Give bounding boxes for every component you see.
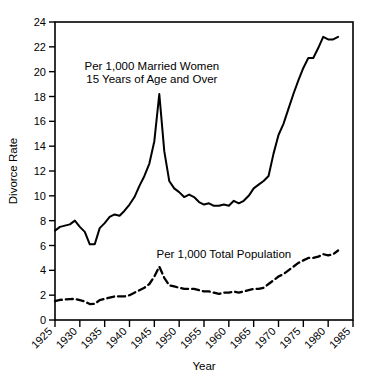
married-women-annotation-line: 15 Years of Age and Over [86, 73, 217, 85]
y-tick-label: 24 [34, 16, 46, 28]
y-tick-label: 2 [40, 289, 46, 301]
y-tick-label: 18 [34, 91, 46, 103]
x-tick-label: 1975 [277, 325, 303, 351]
x-tick-label: 1940 [103, 325, 129, 351]
x-axis-title: Year [192, 360, 215, 372]
x-tick-label: 1930 [53, 325, 79, 351]
y-axis-ticks [49, 22, 55, 320]
x-tick-label: 1960 [202, 325, 228, 351]
x-tick-label: 1935 [78, 325, 104, 351]
y-tick-label: 14 [34, 140, 46, 152]
x-tick-label: 1950 [153, 325, 179, 351]
y-tick-label: 6 [40, 240, 46, 252]
y-tick-label: 0 [40, 314, 46, 326]
y-tick-label: 22 [34, 41, 46, 53]
x-tick-label: 1955 [178, 325, 204, 351]
y-axis-title: Divorce Rate [7, 138, 19, 204]
divorce-rate-chart: 024681012141618202224 192519301935194019… [0, 0, 375, 381]
y-tick-label: 8 [40, 215, 46, 227]
x-tick-label: 1945 [128, 325, 154, 351]
x-tick-label: 1985 [327, 325, 353, 351]
x-axis-ticks [55, 320, 353, 327]
y-tick-label: 10 [34, 190, 46, 202]
x-tick-label: 1925 [29, 325, 55, 351]
x-tick-label: 1980 [302, 325, 328, 351]
x-axis-tick-labels: 1925193019351940194519501955196019651970… [29, 325, 353, 351]
x-tick-label: 1970 [252, 325, 278, 351]
y-tick-label: 12 [34, 165, 46, 177]
y-tick-label: 20 [34, 66, 46, 78]
y-tick-label: 16 [34, 115, 46, 127]
y-tick-label: 4 [40, 264, 46, 276]
x-tick-label: 1965 [227, 325, 253, 351]
married-women-annotation-line: Per 1,000 Married Women [85, 60, 220, 72]
total-population-annotation-line: Per 1,000 Total Population [157, 248, 292, 260]
chart-canvas: 024681012141618202224 192519301935194019… [0, 0, 375, 381]
y-axis-tick-labels: 024681012141618202224 [34, 16, 46, 326]
